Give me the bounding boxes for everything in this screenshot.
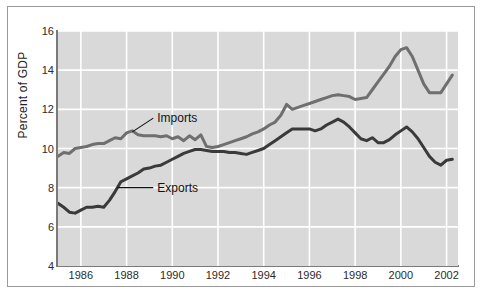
x-tick-label-1990: 1990 bbox=[152, 270, 192, 281]
series-annotation-exports: Exports bbox=[157, 182, 198, 194]
y-tick-label-6: 6 bbox=[10, 222, 54, 233]
annotation-leader-imports bbox=[132, 118, 153, 132]
x-tick-label-1988: 1988 bbox=[107, 270, 147, 281]
x-tick-label-1998: 1998 bbox=[335, 270, 375, 281]
x-tick-label-1986: 1986 bbox=[61, 270, 101, 281]
series-annotation-imports: Imports bbox=[157, 112, 197, 124]
series-line-imports bbox=[58, 48, 452, 157]
x-tick-label-1992: 1992 bbox=[198, 270, 238, 281]
x-tick-label-1994: 1994 bbox=[244, 270, 284, 281]
x-tick-label-2000: 2000 bbox=[381, 270, 421, 281]
y-axis-tick-labels: 46810121416 bbox=[6, 0, 54, 293]
plot-svg bbox=[58, 31, 458, 266]
x-tick-label-2002: 2002 bbox=[427, 270, 467, 281]
y-tick-label-8: 8 bbox=[10, 183, 54, 194]
y-tick-label-4: 4 bbox=[10, 261, 54, 272]
chart-figure: 46810121416 Percent of GDP Imports Expor… bbox=[0, 0, 483, 293]
plot-area: Imports Exports bbox=[58, 31, 458, 266]
x-tick-label-1996: 1996 bbox=[289, 270, 329, 281]
y-axis-title: Percent of GDP bbox=[16, 25, 30, 165]
